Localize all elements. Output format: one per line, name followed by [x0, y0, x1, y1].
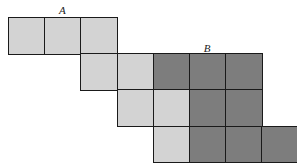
grid-cell-light — [44, 17, 82, 55]
grid-cell-light — [8, 17, 46, 55]
grid-cell-light — [153, 89, 191, 127]
grid-cell-light — [153, 126, 191, 164]
grid-diagram: AB — [0, 0, 297, 165]
grid-cell-dark — [225, 89, 263, 127]
label-b: B — [204, 43, 211, 54]
grid-cell-dark — [261, 126, 297, 164]
grid-cell-light — [117, 89, 155, 127]
grid-cell-light — [80, 53, 118, 91]
grid-cell-dark — [189, 89, 227, 127]
grid-cell-light — [80, 17, 118, 55]
grid-cell-dark — [225, 53, 263, 91]
grid-cell-dark — [225, 126, 263, 164]
grid-cell-light — [117, 53, 155, 91]
grid-cell-dark — [189, 53, 227, 91]
grid-cell-dark — [189, 126, 227, 164]
grid-cell-dark — [153, 53, 191, 91]
label-a: A — [59, 5, 66, 16]
